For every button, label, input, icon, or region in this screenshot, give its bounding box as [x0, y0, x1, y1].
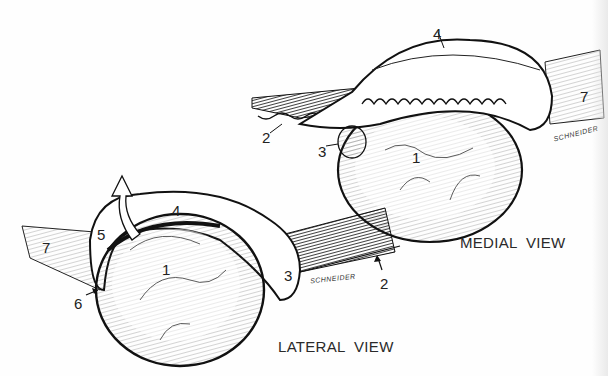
lateral-label-6: 6: [74, 296, 82, 311]
anatomical-illustration: 1 2 3 4 7 SCHNEIDER MEDIAL VIEW 1 2 3 4 …: [0, 0, 608, 376]
lateral-label-7: 7: [42, 240, 50, 255]
lateral-label-3: 3: [284, 268, 292, 283]
medial-label-1: 1: [412, 150, 420, 165]
medial-view-caption: MEDIAL VIEW: [460, 234, 566, 251]
medial-label-7: 7: [580, 89, 588, 104]
lateral-label-1: 1: [162, 262, 170, 277]
medial-label-3: 3: [318, 144, 326, 159]
medial-label-2: 2: [262, 130, 270, 145]
page-edge-shadow: [592, 0, 608, 376]
lateral-label-2: 2: [380, 276, 388, 291]
lateral-view-caption: LATERAL VIEW: [278, 338, 394, 355]
lateral-label-5: 5: [97, 227, 105, 242]
lateral-label-4: 4: [172, 203, 180, 218]
medial-view-drawing: [252, 32, 604, 242]
illustration-drawing: [0, 0, 608, 376]
medial-label-4: 4: [433, 26, 441, 41]
